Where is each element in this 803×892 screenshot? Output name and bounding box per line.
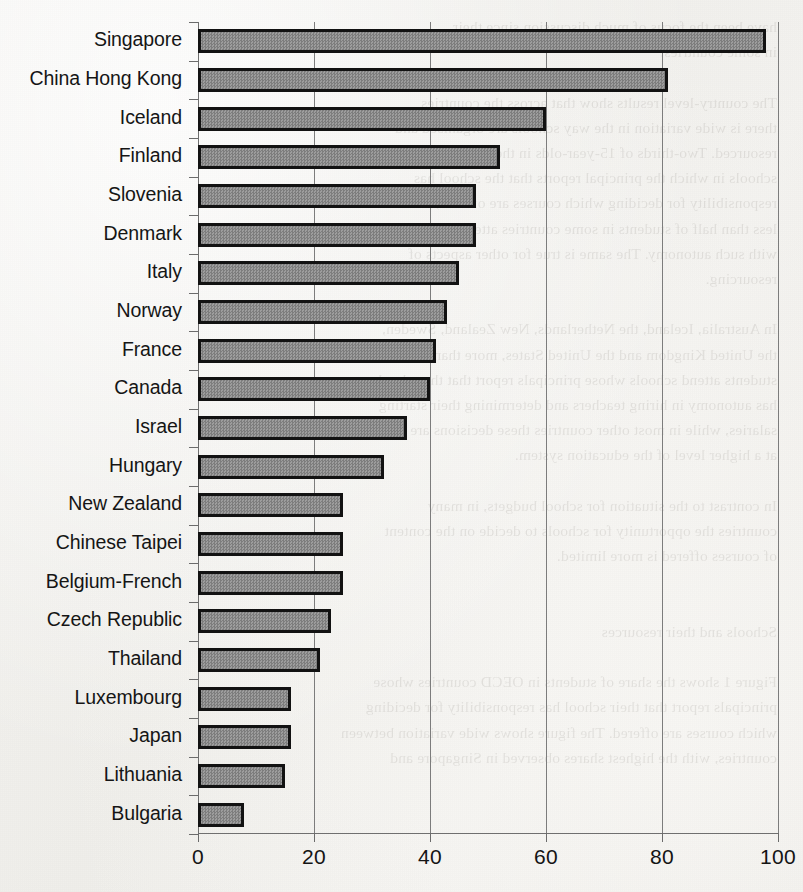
- bar-new-zealand: [198, 493, 343, 517]
- category-label-iceland: Iceland: [0, 106, 182, 129]
- x-tick-label-40: 40: [418, 845, 442, 869]
- category-axis-labels: SingaporeChina Hong KongIcelandFinlandSl…: [0, 22, 190, 834]
- y-tick-11: [189, 447, 198, 448]
- horizontal-bar-chart: SingaporeChina Hong KongIcelandFinlandSl…: [0, 0, 803, 892]
- bar-denmark: [198, 223, 476, 247]
- x-axis-line: [198, 833, 779, 834]
- category-label-china-hong-kong: China Hong Kong: [0, 67, 182, 90]
- y-tick-12: [189, 486, 198, 487]
- y-tick-1: [189, 61, 198, 62]
- category-label-chinese-taipei: Chinese Taipei: [0, 531, 182, 554]
- x-tick-60: [546, 833, 547, 842]
- category-label-new-zealand: New Zealand: [0, 492, 182, 515]
- bar-israel: [198, 416, 407, 440]
- y-tick-14: [189, 563, 198, 564]
- category-label-hungary: Hungary: [0, 454, 182, 477]
- y-tick-15: [189, 602, 198, 603]
- bar-hungary: [198, 455, 384, 479]
- x-tick-40: [430, 833, 431, 842]
- category-label-canada: Canada: [0, 376, 182, 399]
- category-label-czech-republic: Czech Republic: [0, 608, 182, 631]
- bar-bulgaria: [198, 803, 244, 827]
- y-tick-18: [189, 718, 198, 719]
- y-tick-2: [189, 99, 198, 100]
- bar-france: [198, 339, 436, 363]
- x-tick-80: [662, 833, 663, 842]
- bar-china-hong-kong: [198, 68, 668, 92]
- category-label-denmark: Denmark: [0, 222, 182, 245]
- y-tick-8: [189, 331, 198, 332]
- category-label-israel: Israel: [0, 415, 182, 438]
- category-label-slovenia: Slovenia: [0, 183, 182, 206]
- plot-area: [198, 22, 778, 834]
- bar-canada: [198, 377, 430, 401]
- bar-singapore: [198, 29, 766, 53]
- category-label-luxembourg: Luxembourg: [0, 686, 182, 709]
- y-tick-19: [189, 757, 198, 758]
- bar-chinese-taipei: [198, 532, 343, 556]
- y-tick-9: [189, 370, 198, 371]
- bar-thailand: [198, 648, 320, 672]
- x-tick-label-100: 100: [760, 845, 796, 869]
- category-label-norway: Norway: [0, 299, 182, 322]
- x-tick-100: [778, 833, 779, 842]
- bar-luxembourg: [198, 687, 291, 711]
- bar-lithuania: [198, 764, 285, 788]
- bar-czech-republic: [198, 609, 331, 633]
- x-tick-label-80: 80: [650, 845, 674, 869]
- category-label-thailand: Thailand: [0, 647, 182, 670]
- gridline-60: [546, 22, 547, 834]
- x-tick-20: [314, 833, 315, 842]
- value-axis-labels: 020406080100: [0, 845, 803, 885]
- bar-finland: [198, 145, 500, 169]
- bar-italy: [198, 261, 459, 285]
- y-tick-0: [189, 22, 198, 23]
- x-tick-label-60: 60: [534, 845, 558, 869]
- y-tick-3: [189, 138, 198, 139]
- bar-slovenia: [198, 184, 476, 208]
- y-tick-16: [189, 641, 198, 642]
- x-tick-0: [198, 833, 199, 842]
- y-tick-4: [189, 177, 198, 178]
- bar-belgium-french: [198, 571, 343, 595]
- category-label-lithuania: Lithuania: [0, 763, 182, 786]
- y-tick-21: [189, 834, 198, 835]
- category-label-belgium-french: Belgium-French: [0, 570, 182, 593]
- category-label-bulgaria: Bulgaria: [0, 802, 182, 825]
- category-label-finland: Finland: [0, 144, 182, 167]
- y-tick-20: [189, 795, 198, 796]
- gridline-80: [662, 22, 663, 834]
- gridline-100: [778, 22, 779, 834]
- y-tick-10: [189, 409, 198, 410]
- category-label-france: France: [0, 338, 182, 361]
- y-tick-7: [189, 293, 198, 294]
- category-label-singapore: Singapore: [0, 28, 182, 51]
- x-tick-label-0: 0: [192, 845, 204, 869]
- y-tick-6: [189, 254, 198, 255]
- y-tick-17: [189, 679, 198, 680]
- bar-norway: [198, 300, 447, 324]
- category-label-japan: Japan: [0, 724, 182, 747]
- y-tick-5: [189, 215, 198, 216]
- x-tick-label-20: 20: [302, 845, 326, 869]
- bar-iceland: [198, 107, 546, 131]
- category-label-italy: Italy: [0, 260, 182, 283]
- gridline-40: [430, 22, 431, 834]
- y-tick-13: [189, 525, 198, 526]
- bar-japan: [198, 725, 291, 749]
